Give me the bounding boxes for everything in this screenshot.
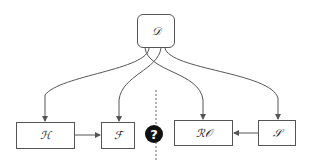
- node-h: ℋ: [16, 122, 75, 149]
- node-ro: ℛ𝒪: [174, 120, 233, 146]
- edge-d-to-s: [165, 48, 278, 119]
- node-h-label: ℋ: [40, 129, 51, 142]
- node-d: 𝒟: [137, 14, 175, 48]
- edge-d-to-ro: [145, 48, 203, 119]
- node-f: ℱ: [101, 122, 135, 149]
- node-s: 𝒮: [258, 120, 296, 146]
- question-icon: ?: [145, 125, 163, 143]
- node-s-label: 𝒮: [273, 127, 282, 140]
- node-ro-label: ℛ𝒪: [196, 127, 212, 140]
- node-f-label: ℱ: [114, 129, 123, 142]
- edge-d-to-h: [45, 48, 149, 121]
- node-d-label: 𝒟: [152, 25, 161, 38]
